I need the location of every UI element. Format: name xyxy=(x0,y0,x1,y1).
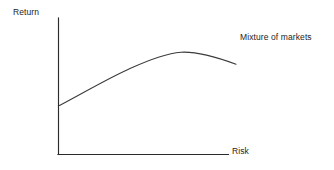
y-axis-label: Return xyxy=(13,8,39,17)
chart-canvas xyxy=(0,0,334,170)
mixture-of-markets-curve xyxy=(60,52,237,105)
risk-return-figure: Return Risk Mixture of markets xyxy=(0,0,334,170)
series-annotation-label: Mixture of markets xyxy=(240,33,312,42)
x-axis-label: Risk xyxy=(232,147,249,156)
